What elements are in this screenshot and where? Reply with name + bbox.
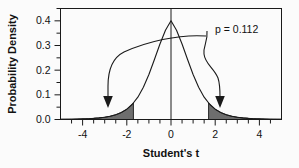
x-axis-title: Student's t	[143, 147, 200, 159]
y-axis-tick-labels: 0.00.10.20.30.4	[36, 14, 51, 125]
left-arrow-head	[103, 96, 113, 108]
x-axis-tick-labels: -4-2024	[78, 128, 263, 140]
t-distribution-figure: -4-2024 0.00.10.20.30.4 Student's t Prob…	[0, 0, 299, 168]
x-tick-label: 4	[256, 128, 262, 140]
x-tick-label: 0	[168, 128, 174, 140]
y-tick-label: 0.0	[36, 113, 51, 125]
chart-canvas: -4-2024 0.00.10.20.30.4 Student's t Prob…	[0, 0, 299, 168]
p-value-annotation: p = 0.112	[215, 23, 258, 35]
left-tail-arrow	[103, 36, 206, 108]
y-axis-title: Probability Density	[6, 13, 18, 114]
right-arrow-head	[215, 96, 225, 108]
x-tick-label: -4	[78, 128, 87, 140]
y-tick-label: 0.4	[36, 14, 51, 26]
y-tick-label: 0.1	[36, 88, 51, 100]
y-axis-ticks	[55, 9, 61, 120]
x-tick-label: -2	[122, 128, 131, 140]
y-tick-label: 0.3	[36, 39, 51, 51]
y-tick-label: 0.2	[36, 64, 51, 76]
x-tick-label: 2	[212, 128, 218, 140]
x-axis-ticks	[72, 120, 271, 126]
right-tail-arrow	[204, 31, 225, 108]
